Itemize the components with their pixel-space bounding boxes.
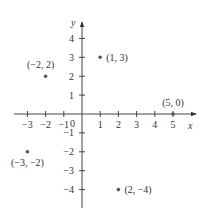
x-tick-label: −2 bbox=[40, 119, 51, 130]
point-marker bbox=[117, 188, 121, 192]
point-label: (−2, 2) bbox=[27, 59, 54, 71]
data-point: (1, 3) bbox=[98, 52, 127, 64]
x-tick-label: 4 bbox=[152, 119, 157, 130]
x-tick-label: 3 bbox=[134, 119, 139, 130]
y-tick-label: 2 bbox=[69, 71, 74, 82]
x-tick-label: 1 bbox=[98, 119, 103, 130]
y-tick-label: 3 bbox=[69, 52, 74, 63]
point-marker bbox=[98, 56, 102, 60]
data-point: (5, 0) bbox=[162, 97, 184, 116]
y-tick-label: −2 bbox=[63, 146, 74, 157]
x-axis-label: x bbox=[187, 120, 193, 131]
point-marker bbox=[171, 112, 175, 116]
point-label: (−3, −2) bbox=[11, 157, 44, 169]
point-label: (5, 0) bbox=[162, 97, 184, 109]
y-tick-label: −3 bbox=[63, 165, 74, 176]
data-point: (−3, −2) bbox=[11, 150, 44, 169]
y-tick-label: −4 bbox=[63, 184, 74, 195]
x-tick-label: 2 bbox=[116, 119, 121, 130]
data-point: (−2, 2) bbox=[27, 59, 54, 78]
y-tick-label: −1 bbox=[63, 127, 74, 138]
origin-label: 0 bbox=[70, 118, 75, 129]
coordinate-plane: −3−2−112345 4321−1−2−3−4 x y 0 (1, 3)(−2… bbox=[0, 0, 206, 210]
data-point: (2, −4) bbox=[117, 184, 152, 196]
point-label: (2, −4) bbox=[124, 184, 151, 196]
x-tick-label: 5 bbox=[171, 119, 176, 130]
point-marker bbox=[26, 150, 30, 154]
y-axis-label: y bbox=[70, 17, 76, 28]
point-label: (1, 3) bbox=[106, 52, 128, 64]
point-marker bbox=[44, 74, 48, 78]
x-tick-label: −3 bbox=[22, 119, 33, 130]
y-tick-label: 1 bbox=[69, 90, 74, 101]
y-tick-label: 4 bbox=[69, 33, 74, 44]
